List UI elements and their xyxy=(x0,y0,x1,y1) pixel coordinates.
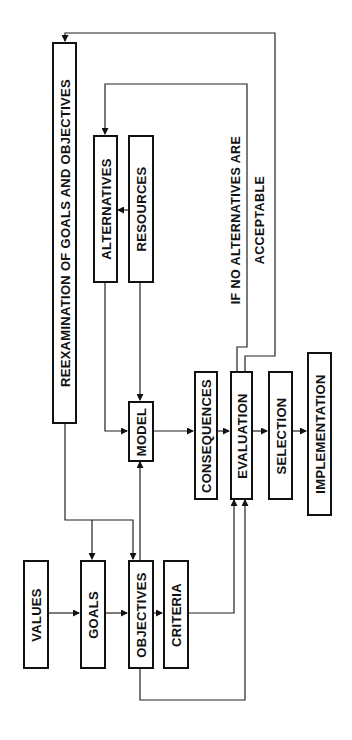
feedback-annotation-line1: IF NO ALTERNATIVES ARE xyxy=(229,136,243,305)
node-label: RESOURCES xyxy=(134,166,149,251)
node-resources: RESOURCES xyxy=(128,135,154,283)
node-label: REEXAMINATION OF GOALS AND OBJECTIVES xyxy=(57,79,72,387)
node-label: VALUES xyxy=(29,588,44,642)
node-goals: GOALS xyxy=(80,560,106,669)
node-model: MODEL xyxy=(128,401,154,462)
node-label: OBJECTIVES xyxy=(134,572,149,657)
feedback-annotation-line2: ACCEPTABLE xyxy=(253,176,267,265)
node-consequences: CONSEQUENCES xyxy=(194,371,218,500)
node-values: VALUES xyxy=(23,560,49,669)
node-criteria: CRITERIA xyxy=(163,560,189,669)
node-implementation: IMPLEMENTATION xyxy=(307,352,332,516)
node-label: SELECTION xyxy=(273,397,288,474)
node-label: GOALS xyxy=(86,591,101,639)
node-label: ALTERNATIVES xyxy=(98,158,113,259)
node-alternatives: ALTERNATIVES xyxy=(93,135,118,283)
node-label: MODEL xyxy=(134,407,149,455)
node-reexamination: REEXAMINATION OF GOALS AND OBJECTIVES xyxy=(52,42,77,424)
node-selection: SELECTION xyxy=(268,371,293,500)
node-evaluation: EVALUATION xyxy=(230,371,253,500)
node-label: EVALUATION xyxy=(234,393,249,479)
node-label: IMPLEMENTATION xyxy=(312,374,327,493)
node-objectives: OBJECTIVES xyxy=(128,560,154,669)
node-label: CONSEQUENCES xyxy=(199,378,214,492)
node-label: CRITERIA xyxy=(169,583,184,647)
flowchart-diagram: REEXAMINATION OF GOALS AND OBJECTIVES AL… xyxy=(0,0,352,740)
